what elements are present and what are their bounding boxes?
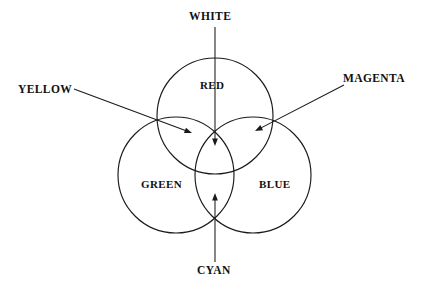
pointer-yellow <box>74 89 192 133</box>
circle-green <box>118 117 234 233</box>
label-white: WHITE <box>189 11 231 23</box>
label-yellow: YELLOW <box>18 84 72 96</box>
pointer-cyan <box>212 193 218 262</box>
diagram-canvas: WHITE YELLOW MAGENTA CYAN RED GREEN BLUE <box>0 0 429 289</box>
label-blue: BLUE <box>259 179 291 190</box>
label-cyan: CYAN <box>197 265 231 277</box>
label-green: GREEN <box>141 179 182 190</box>
label-red: RED <box>200 80 224 91</box>
venn-diagram-graphic <box>0 0 429 289</box>
label-magenta: MAGENTA <box>343 73 405 85</box>
circle-blue <box>195 117 311 233</box>
